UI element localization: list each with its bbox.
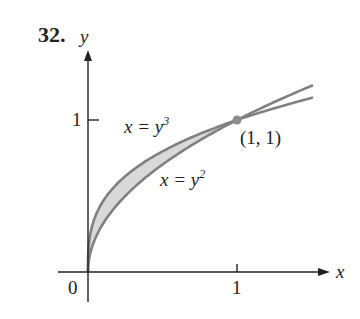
intersection-label: (1, 1)	[240, 127, 281, 149]
x-axis-label: x	[335, 261, 345, 282]
origin-label: 0	[68, 277, 78, 298]
label-x-equals-y-cubed: x = y3	[123, 114, 169, 137]
y-axis-arrow-icon	[84, 50, 92, 61]
problem-number: 32.	[38, 22, 66, 47]
label-x-equals-y-squared: x = y2	[159, 167, 205, 190]
x-tick-label: 1	[232, 277, 242, 298]
shaded-region	[88, 120, 237, 272]
y-tick-label: 1	[72, 109, 82, 130]
x-axis-arrow-icon	[318, 268, 330, 276]
figure: 32. y x 0 1 1 x = y3 x = y2 (1, 1)	[0, 0, 360, 319]
intersection-point	[233, 116, 242, 125]
y-axis-label: y	[78, 26, 89, 47]
